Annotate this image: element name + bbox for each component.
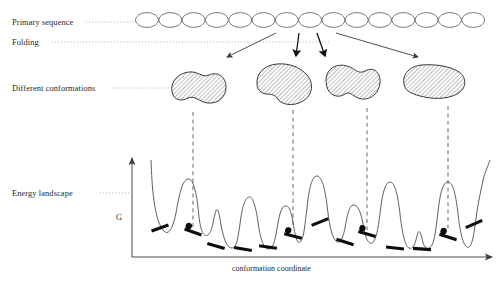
sequence-bead (136, 13, 159, 28)
sequence-bead (369, 13, 392, 28)
sequence-bead (322, 13, 345, 28)
dashed-connector-group (193, 106, 448, 232)
sequence-bead (299, 13, 322, 28)
minimum-tick (413, 248, 431, 249)
primary-sequence-bead-chain (136, 13, 485, 28)
minimum-tick (386, 247, 404, 249)
minimum-marker-9 (358, 224, 378, 236)
protein-folding-diagram (0, 0, 504, 287)
minimum-marker-5 (259, 246, 277, 249)
minimum-tick (234, 247, 252, 250)
sequence-bead (415, 13, 438, 28)
conformation-blob-3 (326, 65, 380, 99)
minimum-tick (259, 246, 277, 249)
folding-arrow-1 (227, 33, 276, 57)
minimum-tick (312, 219, 329, 226)
minimum-marker-11 (413, 248, 431, 249)
minimum-marker-12 (439, 227, 459, 240)
minimum-marker-10 (386, 247, 404, 249)
minimum-marker-13 (466, 220, 482, 227)
sequence-bead (252, 13, 275, 28)
sequence-bead (159, 13, 182, 28)
minimum-marker-3 (207, 244, 224, 249)
minimum-marker-7 (312, 219, 329, 226)
x-axis-label: conformation coordinate (232, 264, 311, 273)
row-label-energy-landscape: Energy landscape (12, 189, 73, 198)
sequence-bead (438, 13, 461, 28)
row-label-folding: Folding (12, 38, 39, 47)
axes-group (132, 158, 492, 257)
minimum-tick (358, 232, 375, 237)
folding-arrow-3 (317, 33, 325, 56)
minimum-marker-4 (234, 247, 252, 250)
minimum-tick (466, 220, 482, 227)
sequence-bead (392, 13, 415, 28)
sequence-bead (182, 13, 205, 28)
y-axis-label: G (116, 213, 122, 222)
minimum-tick (185, 229, 202, 235)
label-leader-lines (52, 22, 330, 193)
sequence-bead (462, 13, 485, 28)
sequence-bead (275, 13, 298, 28)
row-label-different-conformations: Different conformations (12, 84, 95, 93)
minimum-tick (284, 234, 301, 238)
minimum-tick (439, 234, 456, 240)
folding-arrow-4 (336, 33, 418, 57)
sequence-bead (345, 13, 368, 28)
minimum-tick (207, 244, 224, 249)
folding-arrow-group (227, 33, 418, 57)
folding-arrow-2 (296, 33, 299, 56)
conformation-blob-2 (257, 64, 312, 105)
conformation-blob-group (172, 64, 465, 105)
sequence-bead (229, 13, 252, 28)
energy-minima-group (152, 219, 483, 251)
conformation-blob-1 (172, 72, 226, 103)
row-label-primary-sequence: Primary sequence (12, 18, 73, 27)
figure-canvas: Primary sequence Folding Different confo… (0, 0, 504, 287)
sequence-bead (205, 13, 228, 28)
conformation-blob-4 (404, 65, 465, 99)
